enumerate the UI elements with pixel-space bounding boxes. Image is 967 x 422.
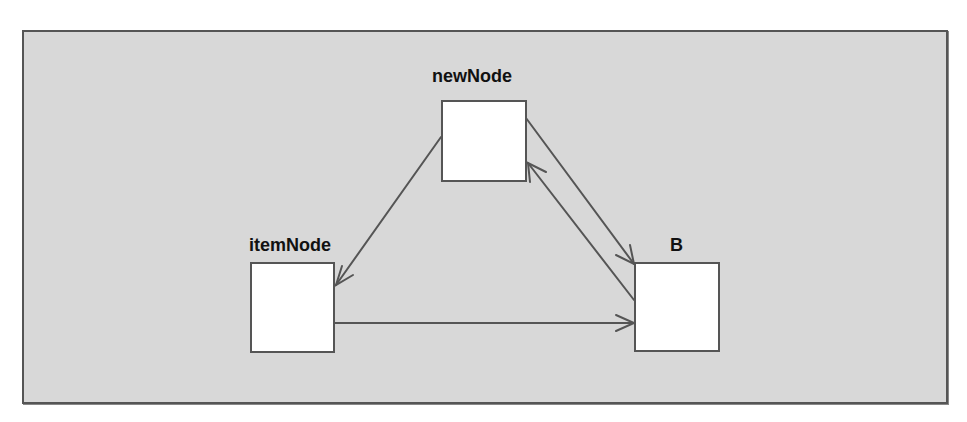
node-label-itemnode: itemNode xyxy=(249,236,331,254)
node-label-b: B xyxy=(670,236,683,254)
diagram-canvas xyxy=(22,30,948,404)
node-itemnode[interactable] xyxy=(250,262,335,353)
node-newnode[interactable] xyxy=(441,100,527,182)
node-label-newnode: newNode xyxy=(432,67,512,85)
node-b[interactable] xyxy=(634,262,720,352)
